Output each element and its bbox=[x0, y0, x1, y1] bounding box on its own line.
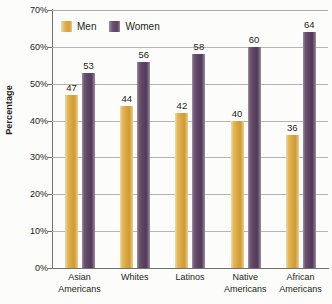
y-axis-tick-label: 0% bbox=[4, 263, 48, 273]
y-axis-tick-label: 30% bbox=[4, 152, 48, 162]
y-axis-tick-label: 10% bbox=[4, 226, 48, 236]
bar-value-label: 58 bbox=[194, 41, 205, 52]
chart-legend: MenWomen bbox=[61, 21, 160, 32]
bar-chart: Percentage 0%10%20%30%40%50%60%70% 47534… bbox=[0, 0, 332, 304]
x-axis-label-line1: African bbox=[286, 272, 314, 282]
x-axis-label-line1: Native bbox=[232, 272, 258, 282]
legend-swatch-icon bbox=[61, 21, 72, 32]
legend-label: Women bbox=[125, 21, 159, 32]
bar-value-label: 42 bbox=[177, 100, 188, 111]
plot-area: 47534456425840603664 bbox=[52, 10, 328, 268]
legend-item: Men bbox=[61, 21, 96, 32]
legend-label: Men bbox=[77, 21, 96, 32]
bar-men: 47 bbox=[65, 95, 78, 268]
bar-value-label: 44 bbox=[121, 93, 132, 104]
bar-women: 60 bbox=[248, 47, 261, 268]
y-axis-tick-label: 70% bbox=[4, 5, 48, 15]
legend-swatch-icon bbox=[109, 21, 120, 32]
x-axis-label-line1: Latinos bbox=[175, 272, 204, 282]
bar-value-label: 60 bbox=[249, 34, 260, 45]
bar-women: 53 bbox=[82, 73, 95, 268]
y-axis-tick-label: 40% bbox=[4, 116, 48, 126]
bar-group: 4753 bbox=[57, 10, 112, 268]
x-axis-label-line1: Whites bbox=[121, 272, 149, 282]
bar-group: 4258 bbox=[167, 10, 222, 268]
x-axis-label: NativeAmericans bbox=[216, 272, 275, 295]
bar-group: 3664 bbox=[278, 10, 332, 268]
x-axis-label-line2: Americans bbox=[50, 284, 109, 296]
bar-value-label: 40 bbox=[232, 108, 243, 119]
y-axis-tick-label: 50% bbox=[4, 79, 48, 89]
x-axis-label: AfricanAmericans bbox=[271, 272, 330, 295]
x-axis-label: Whites bbox=[105, 272, 164, 284]
bar-men: 40 bbox=[231, 121, 244, 268]
bar-women: 58 bbox=[192, 54, 205, 268]
bar-men: 36 bbox=[286, 135, 299, 268]
bar-value-label: 56 bbox=[138, 49, 149, 60]
bar-group: 4456 bbox=[112, 10, 167, 268]
bar-men: 44 bbox=[120, 106, 133, 268]
x-axis-line bbox=[52, 268, 329, 269]
x-axis-label: AsianAmericans bbox=[50, 272, 109, 295]
bar-women: 56 bbox=[137, 62, 150, 268]
x-axis-label: Latinos bbox=[160, 272, 219, 284]
bar-men: 42 bbox=[175, 113, 188, 268]
bar-value-label: 53 bbox=[83, 60, 94, 71]
y-axis-tick-label: 60% bbox=[4, 42, 48, 52]
bar-value-label: 64 bbox=[304, 19, 315, 30]
legend-item: Women bbox=[109, 21, 159, 32]
bar-value-label: 36 bbox=[287, 122, 298, 133]
bar-value-label: 47 bbox=[66, 82, 77, 93]
bar-women: 64 bbox=[303, 32, 316, 268]
y-axis-tick-label: 20% bbox=[4, 189, 48, 199]
x-axis-label-line1: Asian bbox=[68, 272, 91, 282]
y-axis-ticks: 0%10%20%30%40%50%60%70% bbox=[0, 0, 48, 304]
bar-group: 4060 bbox=[223, 10, 278, 268]
x-axis-label-line2: Americans bbox=[271, 284, 330, 296]
x-axis-label-line2: Americans bbox=[216, 284, 275, 296]
